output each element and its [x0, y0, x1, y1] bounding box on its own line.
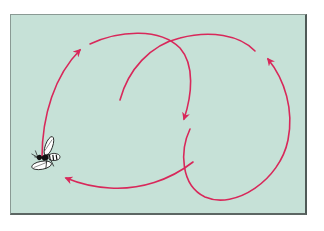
right-loop-path: [184, 59, 290, 200]
bee-icon: [21, 133, 67, 177]
top-descending-arc-path: [90, 33, 191, 119]
inner-rising-arc-path: [120, 34, 255, 100]
flight-path-diagram: [0, 0, 324, 231]
bottom-return-arc-path: [66, 162, 193, 188]
